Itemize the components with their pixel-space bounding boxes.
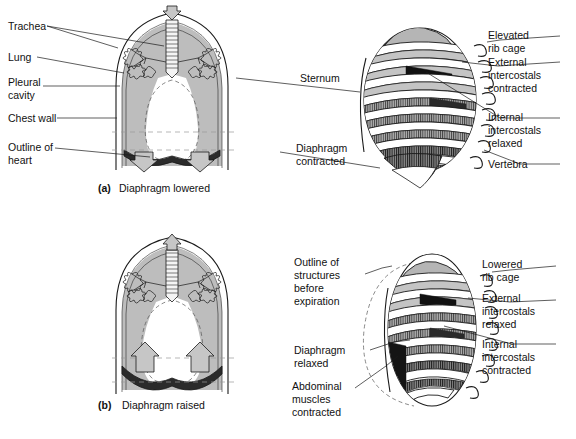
label-diaphragm-contracted-line2: contracted — [296, 155, 345, 167]
label-diaphragm-relaxed-line2: relaxed — [294, 357, 329, 369]
label-diaphragm-relaxed-line1: Diaphragm — [294, 344, 346, 356]
label-chest-wall: Chest wall — [8, 112, 56, 124]
label-pleural-cavity-line1: Pleural — [8, 76, 41, 88]
label-outline-of-structures-line2: structures — [294, 269, 340, 281]
airflow-arrow-out — [163, 234, 181, 250]
trachea — [166, 20, 178, 78]
leader-lung — [37, 57, 124, 73]
label-outline-of-structures-line4: expiration — [294, 295, 340, 307]
label-lowered-rib-cage-line2: rib cage — [482, 271, 520, 283]
label-diaphragm-contracted-line1: Diaphragm — [296, 142, 348, 154]
label-internal-intercostals-contracted-line1: Internal — [482, 338, 517, 350]
label-outline-of-structures-line3: before — [294, 282, 324, 294]
label-sternum: Sternum — [300, 72, 340, 84]
label-abdominal-muscles-line3: contracted — [292, 406, 341, 418]
label-outline-of-heart-line1: Outline of — [8, 141, 53, 153]
trachea-b — [166, 250, 178, 302]
label-outline-of-heart-line2: heart — [8, 154, 32, 166]
label-abdominal-muscles-line2: muscles — [292, 393, 331, 405]
label-vertebra: Vertebra — [488, 158, 528, 170]
panel-d-rib-cage-expiration: Lowered rib cage External intercostals r… — [292, 254, 556, 418]
abdominal-muscle-block — [388, 342, 406, 404]
leader-outline-of-structures — [365, 266, 392, 274]
label-internal-intercostals-line1: Internal — [488, 111, 523, 123]
label-external-intercostals-relaxed-line3: relaxed — [482, 318, 517, 330]
label-pleural-cavity-line2: cavity — [8, 89, 36, 101]
label-external-intercostals-line3: contracted — [488, 82, 537, 94]
label-abdominal-muscles-line1: Abdominal — [292, 380, 342, 392]
panel-c-rib-cage-inspiration: Elevated rib cage External intercostals … — [236, 28, 560, 189]
panel-a-diaphragm-lowered: Trachea Lung Pleural cavity Chest wall O… — [8, 6, 234, 194]
panel-a-caption-text: Diaphragm lowered — [119, 182, 210, 194]
figure-canvas: Trachea Lung Pleural cavity Chest wall O… — [0, 0, 576, 439]
panel-b-diaphragm-raised: (b) Diaphragm raised — [98, 234, 234, 411]
leader-trachea — [47, 26, 118, 48]
label-internal-intercostals-line3: relaxed — [488, 137, 523, 149]
airflow-arrow-in — [163, 6, 181, 20]
label-external-intercostals-line2: intercostals — [488, 69, 541, 81]
panel-b-caption-text: Diaphragm raised — [122, 399, 205, 411]
label-outline-of-structures-line1: Outline of — [294, 256, 339, 268]
label-internal-intercostals-contracted-line3: contracted — [482, 364, 531, 376]
label-trachea: Trachea — [8, 20, 46, 32]
label-lowered-rib-cage-line1: Lowered — [482, 258, 522, 270]
leader-sternum — [236, 78, 360, 92]
label-internal-intercostals-contracted-line2: intercostals — [482, 351, 535, 363]
label-elevated-rib-cage-line1: Elevated — [488, 29, 529, 41]
panel-b-caption-marker: (b) — [98, 399, 111, 411]
label-external-intercostals-relaxed-line1: External — [482, 292, 521, 304]
label-internal-intercostals-line2: intercostals — [488, 124, 541, 136]
label-elevated-rib-cage-line2: rib cage — [488, 42, 526, 54]
figure-root: Trachea Lung Pleural cavity Chest wall O… — [0, 0, 576, 439]
label-external-intercostals-relaxed-line2: intercostals — [482, 305, 535, 317]
diaphragm-contracted-shape — [384, 153, 442, 188]
label-external-intercostals-line1: External — [488, 56, 527, 68]
panel-a-caption-marker: (a) — [98, 182, 111, 194]
label-lung: Lung — [8, 51, 32, 63]
